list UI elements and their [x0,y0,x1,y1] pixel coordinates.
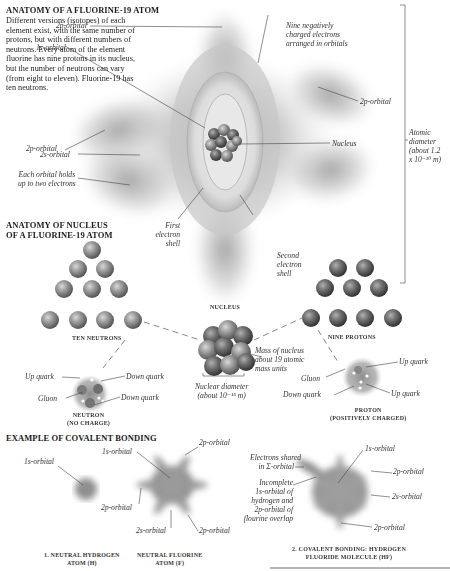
label-hf-2s-orbital: 2s-orbital [392,492,422,501]
label-nucleus: Nucleus [332,139,356,148]
label-f-2p-orbital-top: 2p-orbital [199,438,230,447]
label-proton-down-quark: Down quark [283,390,321,399]
label-f-2p-orbital-bottom: 2p-orbital [199,526,230,535]
label-atomic-diameter: Atomic diameter (about 1.2 x 10⁻¹⁰ m) [409,128,441,164]
caption-nine-protons: NINE PROTONS [328,333,376,341]
caption-ten-neutrons: TEN NEUTRONS [72,334,122,342]
label-neutron-down-quark-2: Down quark [121,393,159,402]
label-neutron-down-quark-1: Down quark [126,372,164,381]
ten-neutrons [41,241,142,329]
label-proton-gluon: Gluon [301,374,320,383]
label-f-2s-orbital: 2s-orbital [136,526,166,535]
label-hf-2p-orbital-1: 2p-orbital [393,467,424,476]
label-proton-up-quark-1: Up quark [399,357,428,366]
label-neutron-gluon: Gluon [38,394,57,403]
hf-molecule-orbitals [295,454,369,530]
fluorine-orbitals [136,453,208,518]
label-first-shell: First electron shell [152,221,180,248]
label-hf-1s-orbital: 1s-orbital [365,444,395,453]
label-2p-orbital-top: 2p-orbital [56,21,87,30]
proton-quark-diagram [342,357,382,397]
section-title-nucleus: ANATOMY OF NUCLEUS OF A FLUORINE-19 ATOM [6,220,113,240]
section-title-covalent: EXAMPLE OF COVALENT BONDING [6,433,157,443]
label-hf-electrons-shared: Electrons shared in Σ-orbital [250,453,294,471]
label-f-1s-orbital: 1s-orbital [102,447,132,456]
caption-hf: 2. COVALENT BONDING: HYDROGEN FLUORIDE M… [292,545,406,561]
label-2p-orbital-right: 2p-orbital [360,97,391,106]
label-second-shell: Second electron shell [277,251,302,278]
label-each-orbital: Each orbital holds up to two electrons [18,170,76,188]
label-h-1s-orbital: 1s-orbital [24,457,54,466]
nucleus-cluster [198,320,255,376]
label-proton-up-quark-2: Up quark [391,389,420,398]
label-neutron-up-quark: Up quark [25,372,54,381]
label-1s-orbital: 1s-orbital [36,43,66,52]
nine-protons [302,259,402,327]
caption-neutron: NEUTRON (NO CHARGE) [67,411,110,427]
label-2s-orbital: 2s-orbital [40,150,70,159]
caption-fluorine: NEUTRAL FLUORINE ATOM (F) [137,551,202,567]
label-nine-electrons: Nine negatively charged electrons arrang… [286,21,348,48]
label-hf-incomplete: Incomplete 1s-orbital of hydrogen and 2p… [242,478,293,523]
section-title-atom: ANATOMY OF A FLUORINE-19 ATOM [6,5,159,15]
label-mass: Mass of nucleus about 19 atomic mass uni… [255,346,304,373]
caption-nucleus: NUCLEUS [210,303,240,311]
label-hf-2p-orbital-2: 2p-orbital [374,523,405,532]
label-f-2p-orbital-left: 2p-orbital [101,503,132,512]
label-nuclear-diameter: Nuclear diameter (about 10⁻¹⁵ m) [195,382,248,400]
caption-proton: PROTON (POSITIVELY CHARGED) [330,406,406,422]
caption-hydrogen: 1. NEUTRAL HYDROGEN ATOM (H) [44,551,120,567]
